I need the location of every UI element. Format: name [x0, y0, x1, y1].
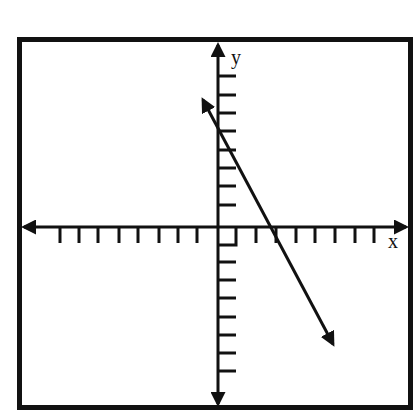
y-axis-label: y [231, 46, 241, 69]
coordinate-plane: y x [0, 0, 420, 413]
x-axis-label: x [388, 230, 398, 252]
graph-frame [20, 40, 411, 408]
